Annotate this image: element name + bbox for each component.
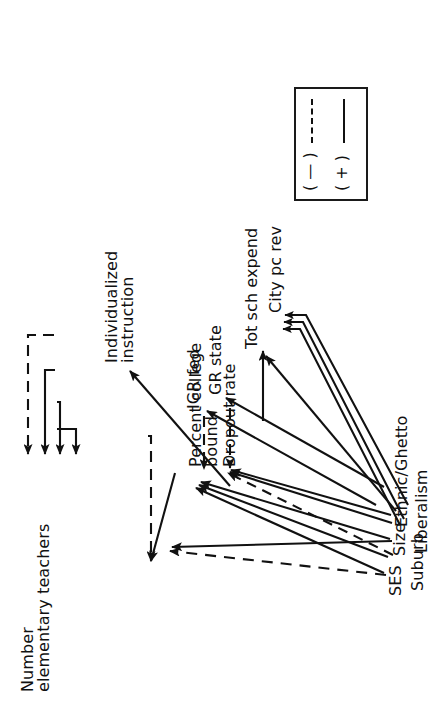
legend-negative-symbol: ( — ) xyxy=(300,152,319,191)
legend-dashed-line-sample xyxy=(311,99,313,143)
edge-size-to-percent-college-bound xyxy=(201,482,390,539)
node-individualized-instruction: Individualized instruction xyxy=(104,251,136,363)
node-tot-sch-expend: Tot sch expend xyxy=(244,228,260,349)
edge-city-pc-rev-to-teachers xyxy=(28,335,54,454)
node-number-elementary-teachers: Number elementary teachers xyxy=(20,524,52,692)
edge-ethnic-ghetto-to-gr-state xyxy=(226,398,384,487)
edge-size-to-tot-sch-expend xyxy=(266,356,396,511)
node-igr-fed: IGR fed xyxy=(186,349,202,409)
edge-size-to-city-pc-rev xyxy=(285,315,408,505)
node-number-elementary-teachers-line2: elementary teachers xyxy=(36,524,52,692)
node-igr-state: GR state xyxy=(208,325,224,395)
edge-ses-to-teachers xyxy=(170,551,386,575)
edge-dropout-rate-to-teachers xyxy=(148,436,151,561)
node-size: Size xyxy=(392,523,408,556)
edge-percent-college-bound-to-teachers xyxy=(151,473,175,561)
legend-box: ( — ) ( + ) xyxy=(294,87,368,201)
node-city-pc-rev: City pc rev xyxy=(268,226,284,313)
edge-tot-sch-expend-to-teachers xyxy=(45,370,55,454)
edge-ses-to-percent-college-bound xyxy=(196,488,384,573)
legend-solid-line-sample xyxy=(343,99,345,143)
node-liberalism: Liberalism xyxy=(414,469,430,553)
legend-positive-symbol: ( + ) xyxy=(332,155,351,191)
node-ses: SES xyxy=(388,565,404,596)
node-ethnic-ghetto: Ethnic/Ghetto xyxy=(394,416,410,527)
node-individualized-instruction-line2: instruction xyxy=(120,251,136,363)
